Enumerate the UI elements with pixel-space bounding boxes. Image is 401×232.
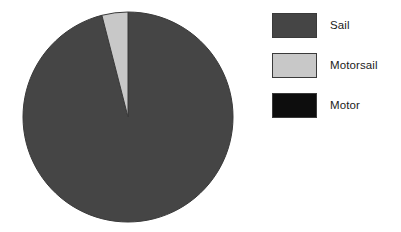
legend-swatch-sail [272,13,317,38]
legend-item-sail[interactable]: Sail [272,13,401,38]
legend-item-motorsail[interactable]: Motorsail [272,53,401,78]
legend-item-motor[interactable]: Motor [272,93,401,118]
pie-chart-svg [0,0,260,232]
pie-chart-plot-area [0,0,260,232]
legend-label-motorsail: Motorsail [330,59,378,72]
legend-swatch-motorsail [272,53,317,78]
legend-label-sail: Sail [330,19,350,32]
chart-legend: Sail Motorsail Motor [272,13,401,133]
legend-swatch-motor [272,93,317,118]
pie-chart-figure: Sail Motorsail Motor [0,0,401,232]
pie-slice-group [23,12,233,222]
legend-label-motor: Motor [330,99,360,112]
